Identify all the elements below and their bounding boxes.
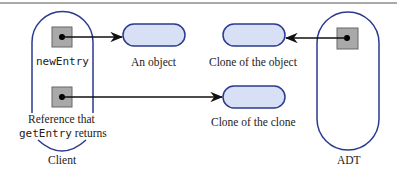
client-label: Client <box>48 154 76 166</box>
client-capsule-bottom <box>38 140 86 151</box>
object-pill <box>123 24 185 46</box>
diagram-canvas <box>0 0 397 175</box>
an-object-label: An object <box>131 56 176 68</box>
getentry-code: getEntry <box>19 127 72 140</box>
reference-label-line1: Reference that <box>28 113 95 125</box>
newentry-label: newEntry <box>36 55 89 68</box>
clone-of-object-pill <box>223 24 285 46</box>
returns-text: returns <box>75 127 107 139</box>
clone-of-clone-pill <box>223 86 285 108</box>
reference-label-line2: getEntry returns <box>19 127 107 140</box>
clone-of-object-label: Clone of the object <box>209 56 297 68</box>
adt-label: ADT <box>337 154 361 166</box>
clone-of-clone-label: Clone of the clone <box>211 116 296 128</box>
